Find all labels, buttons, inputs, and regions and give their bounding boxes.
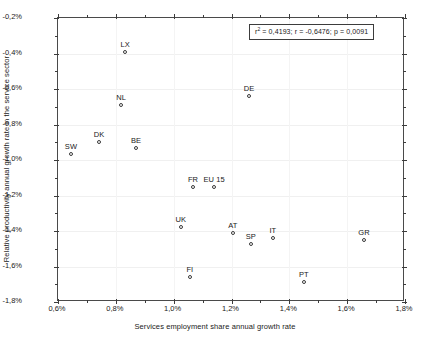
data-point-label: DK bbox=[94, 131, 105, 139]
x-axis-minor-tick bbox=[318, 300, 319, 303]
data-point bbox=[302, 280, 306, 284]
data-point bbox=[212, 185, 216, 189]
y-axis-minor-tick bbox=[55, 107, 58, 108]
x-axis-tick bbox=[347, 14, 348, 19]
statistics-annotation: r2 = 0,4193; r = -0,6476; p = 0,0091 bbox=[249, 24, 374, 40]
x-axis-tick-label: 1,2% bbox=[222, 305, 239, 313]
data-point bbox=[69, 152, 73, 156]
gridline-horizontal bbox=[58, 125, 403, 126]
gridline-horizontal bbox=[58, 89, 403, 90]
y-axis-tick-label: -1,6% bbox=[2, 262, 22, 270]
y-axis-minor-tick bbox=[55, 284, 58, 285]
data-point-label: AT bbox=[228, 221, 237, 229]
data-point bbox=[179, 225, 183, 229]
data-point-label: FI bbox=[186, 265, 193, 273]
data-point bbox=[249, 242, 253, 246]
y-axis-tick bbox=[402, 267, 407, 268]
x-axis-minor-tick bbox=[318, 15, 319, 18]
gridline-horizontal bbox=[58, 160, 403, 161]
x-axis-minor-tick bbox=[203, 300, 204, 303]
x-axis-minor-tick bbox=[260, 15, 261, 18]
y-axis-title: Relative productivity annual growth rate… bbox=[2, 56, 11, 262]
y-axis-minor-tick bbox=[403, 36, 406, 37]
x-axis-minor-tick bbox=[145, 300, 146, 303]
data-point bbox=[191, 185, 195, 189]
data-point bbox=[97, 140, 101, 144]
data-point-label: LX bbox=[120, 41, 129, 49]
y-axis-tick-label: -0,2% bbox=[2, 13, 22, 21]
x-axis-minor-tick bbox=[87, 15, 88, 18]
y-axis-minor-tick bbox=[403, 142, 406, 143]
x-axis-minor-tick bbox=[203, 15, 204, 18]
y-axis-minor-tick bbox=[403, 178, 406, 179]
x-axis-tick-label: 0,6% bbox=[48, 305, 65, 313]
data-point-label: FR bbox=[188, 175, 198, 183]
x-axis-tick bbox=[58, 14, 59, 19]
gridline-vertical bbox=[116, 18, 117, 300]
data-point-label: PT bbox=[299, 270, 309, 278]
x-axis-tick-label: 1,4% bbox=[280, 305, 297, 313]
gridline-horizontal bbox=[58, 267, 403, 268]
data-point bbox=[123, 50, 127, 54]
y-axis-tick bbox=[402, 89, 407, 90]
x-axis-minor-tick bbox=[376, 15, 377, 18]
y-axis-tick bbox=[402, 125, 407, 126]
plot-area: SWDKBELXNLDEFREU 15UKATITSPGRPTFI bbox=[57, 17, 404, 301]
data-point bbox=[247, 94, 251, 98]
gridline-horizontal bbox=[58, 54, 403, 55]
data-point-label: GR bbox=[358, 229, 369, 237]
y-axis-tick bbox=[54, 267, 59, 268]
data-point-label: BE bbox=[131, 136, 141, 144]
y-axis-minor-tick bbox=[55, 36, 58, 37]
x-axis-tick-label: 0,8% bbox=[106, 305, 123, 313]
y-axis-tick bbox=[402, 54, 407, 55]
gridline-vertical bbox=[232, 18, 233, 300]
y-axis-tick bbox=[54, 196, 59, 197]
x-axis-minor-tick bbox=[87, 300, 88, 303]
gridline-vertical bbox=[347, 18, 348, 300]
x-axis-minor-tick bbox=[376, 300, 377, 303]
scatter-chart: SWDKBELXNLDEFREU 15UKATITSPGRPTFI -0,2%-… bbox=[0, 0, 430, 347]
y-axis-tick bbox=[402, 196, 407, 197]
data-point bbox=[271, 236, 275, 240]
data-point-label: NL bbox=[116, 93, 126, 101]
gridline-vertical bbox=[289, 18, 290, 300]
data-point-label: DE bbox=[244, 84, 255, 92]
x-axis-tick-label: 1,8% bbox=[395, 305, 412, 313]
y-axis-minor-tick bbox=[403, 107, 406, 108]
x-axis-tick bbox=[232, 14, 233, 19]
x-axis-tick bbox=[405, 14, 406, 19]
data-point-label: SP bbox=[246, 232, 256, 240]
data-point bbox=[362, 238, 366, 242]
gridline-horizontal bbox=[58, 196, 403, 197]
x-axis-tick bbox=[116, 14, 117, 19]
y-axis-tick-label: -1,8% bbox=[2, 297, 22, 305]
x-axis-tick bbox=[289, 14, 290, 19]
data-point bbox=[134, 146, 138, 150]
x-axis-tick-label: 1,6% bbox=[338, 305, 355, 313]
data-point bbox=[231, 231, 235, 235]
y-axis-tick bbox=[54, 125, 59, 126]
y-axis-minor-tick bbox=[55, 213, 58, 214]
y-axis-tick bbox=[54, 231, 59, 232]
y-axis-tick bbox=[54, 160, 59, 161]
data-point-label: IT bbox=[269, 226, 276, 234]
y-axis-tick bbox=[54, 54, 59, 55]
y-axis-minor-tick bbox=[55, 142, 58, 143]
y-axis-minor-tick bbox=[403, 213, 406, 214]
y-axis-tick bbox=[402, 231, 407, 232]
data-point-label: EU 15 bbox=[203, 175, 224, 183]
y-axis-minor-tick bbox=[55, 178, 58, 179]
x-axis-tick bbox=[174, 14, 175, 19]
x-axis-title: Services employment share annual growth … bbox=[0, 322, 430, 331]
y-axis-minor-tick bbox=[403, 71, 406, 72]
x-axis-tick-label: 1,0% bbox=[164, 305, 181, 313]
gridline-vertical bbox=[174, 18, 175, 300]
y-axis-minor-tick bbox=[55, 249, 58, 250]
y-axis-tick bbox=[54, 89, 59, 90]
y-axis-tick bbox=[402, 160, 407, 161]
data-point bbox=[188, 275, 192, 279]
y-axis-minor-tick bbox=[403, 249, 406, 250]
y-axis-minor-tick bbox=[55, 71, 58, 72]
data-point-label: SW bbox=[65, 142, 77, 150]
